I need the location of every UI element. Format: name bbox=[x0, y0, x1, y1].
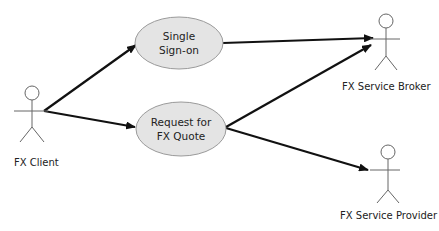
use-case-request-fx-quote-label: Request for FX Quote bbox=[136, 115, 226, 143]
edge-sso-to-broker bbox=[223, 38, 373, 43]
use-case-label-line: Single bbox=[139, 29, 219, 43]
edge-client-to-sso bbox=[44, 45, 136, 111]
actor-fx-service-provider-label: FX Service Provider bbox=[340, 210, 437, 221]
actor-fx-service-provider-icon[interactable] bbox=[370, 145, 400, 203]
use-case-label-line: Request for bbox=[136, 115, 226, 129]
use-case-label-line: Sign-on bbox=[139, 43, 219, 57]
actor-fx-client-label: FX Client bbox=[14, 157, 59, 168]
actor-fx-service-broker-label: FX Service Broker bbox=[342, 81, 431, 92]
use-case-single-sign-on-label: Single Sign-on bbox=[139, 29, 219, 57]
actor-fx-client-icon[interactable] bbox=[14, 86, 48, 142]
edge-client-to-quote bbox=[44, 111, 135, 127]
edge-quote-to-provider bbox=[226, 128, 368, 170]
use-case-label-line: FX Quote bbox=[136, 129, 226, 143]
actor-fx-service-broker-icon[interactable] bbox=[370, 14, 400, 70]
